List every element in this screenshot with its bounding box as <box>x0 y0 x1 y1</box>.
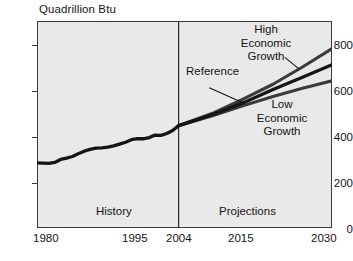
series-line-reference <box>179 65 332 126</box>
x-tick-label-2015: 2015 <box>228 232 254 244</box>
energy-consumption-chart: Quadrillion Btu 800 600 400 200 0 1980 1… <box>0 0 353 261</box>
high-growth-leader-line <box>285 57 299 68</box>
x-tick-label-2030: 2030 <box>311 232 337 244</box>
series-line-history <box>37 126 179 164</box>
plot-lines <box>37 21 332 228</box>
x-tick-label-1995: 1995 <box>122 232 148 244</box>
x-tick-label-1980: 1980 <box>33 232 59 244</box>
chart-title: Quadrillion Btu <box>39 3 116 15</box>
series-group <box>37 21 332 228</box>
x-tick-label-2004: 2004 <box>166 232 192 244</box>
reference-leader-line <box>209 88 241 102</box>
